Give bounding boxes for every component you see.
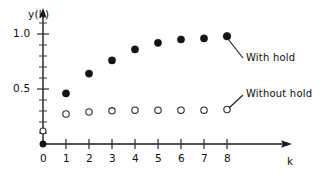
x-axis-title: k — [287, 155, 293, 167]
without-hold-leader-line — [229, 95, 243, 108]
data-point-open-k5 — [155, 107, 161, 113]
data-point-filled-k4 — [131, 46, 138, 53]
data-point-open-k3 — [109, 108, 115, 114]
data-point-filled-k5 — [154, 39, 161, 46]
y-tick-label-1-0: 1.0 — [13, 27, 30, 39]
y-axis-title: y(k) — [28, 8, 49, 20]
data-point-filled-k7 — [200, 35, 207, 42]
data-point-filled-k3 — [108, 57, 115, 64]
y-tick-label-0-5: 0.5 — [13, 82, 30, 94]
data-point-open-k4 — [132, 107, 138, 113]
x-tick-label-2: 2 — [86, 152, 93, 164]
data-point-filled-k1 — [62, 90, 69, 97]
with-hold-leader-line — [228, 39, 243, 58]
x-tick-label-7: 7 — [201, 152, 208, 164]
x-tick-label-3: 3 — [109, 152, 116, 164]
series-label-without-hold: Without hold — [246, 88, 312, 99]
data-point-open-k1 — [63, 111, 69, 117]
data-point-filled-k2 — [85, 70, 92, 77]
x-tick-label-1: 1 — [63, 152, 70, 164]
x-tick-label-8: 8 — [224, 152, 231, 164]
data-point-open-k0 — [40, 128, 46, 134]
data-point-open-k6 — [178, 107, 184, 113]
data-point-filled-k6 — [177, 36, 184, 43]
data-point-filled-k8 — [223, 32, 231, 40]
x-tick-label-0: 0 — [40, 152, 47, 164]
x-tick-label-4: 4 — [132, 152, 139, 164]
series-label-with-hold: With hold — [246, 52, 295, 63]
step-response-chart: y(k) k 1.0 0.5 0 1 2 3 4 5 6 7 8 With ho… — [0, 0, 325, 179]
data-point-origin — [40, 141, 46, 147]
data-point-open-k7 — [201, 107, 207, 113]
data-point-open-k2 — [86, 109, 92, 115]
x-tick-label-6: 6 — [178, 152, 185, 164]
x-tick-label-5: 5 — [155, 152, 162, 164]
